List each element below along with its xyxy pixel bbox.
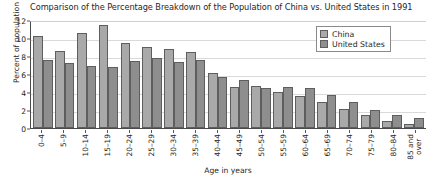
bar-china [33, 36, 43, 128]
bar-group [294, 22, 316, 128]
legend-label: China [332, 30, 354, 39]
bar-china [77, 33, 87, 128]
bar-china [208, 73, 218, 128]
legend-label: United States [332, 40, 385, 49]
bar-group [272, 22, 294, 128]
bar-china [361, 115, 371, 129]
bar-group [97, 22, 119, 128]
y-axis-tick-label: 10 [2, 35, 26, 44]
x-axis-tick-label: 60–64 [301, 134, 310, 157]
x-axis-tick-label: 30–34 [169, 134, 178, 157]
bar-group [54, 22, 76, 128]
x-axis-tick-label: 10–14 [81, 134, 90, 157]
bar-china [55, 51, 65, 128]
bar-group [228, 22, 250, 128]
y-axis-tick-label: 2 [2, 107, 26, 116]
bar-china [164, 49, 174, 128]
x-axis-tick-label: 20–24 [125, 134, 134, 157]
bar-united-states [349, 102, 359, 128]
x-axis-tick-slot: 85 andover [404, 130, 426, 164]
bar-united-states [261, 88, 271, 129]
x-axis-tick-label: 70–74 [345, 134, 354, 157]
x-axis-tick-label: 45–49 [235, 134, 244, 157]
x-axis-tick-slot: 0–4 [30, 130, 52, 164]
bar-china [295, 96, 305, 128]
bar-united-states [327, 95, 337, 128]
bar-china [186, 52, 196, 129]
bar-united-states [43, 60, 53, 128]
x-axis-tick-slot: 45–49 [228, 130, 250, 164]
bar-china [251, 86, 261, 128]
x-axis-tick-slot: 80–84 [382, 130, 404, 164]
bar-china [404, 124, 414, 129]
bar-group [141, 22, 163, 128]
bar-group [207, 22, 229, 128]
x-axis-tick-label: 75–79 [367, 134, 376, 157]
x-axis-tick-slot: 30–34 [162, 130, 184, 164]
bar-united-states [87, 66, 97, 128]
x-axis-tick-slot: 55–59 [272, 130, 294, 164]
x-axis-tick-mark [63, 130, 64, 133]
bar-china [142, 47, 152, 128]
x-axis-tick-label: 65–69 [323, 134, 332, 157]
bar-united-states [239, 80, 249, 128]
legend-item[interactable]: China [320, 29, 385, 39]
bar-united-states [283, 87, 293, 128]
bar-chart-figure: Comparison of the Percentage Breakdown o… [0, 0, 432, 181]
x-axis-tick-label: 35–39 [191, 134, 200, 157]
legend-swatch-icon [320, 30, 328, 38]
legend-swatch-icon [320, 40, 328, 48]
bar-group [403, 22, 425, 128]
y-axis-tick-label: 4 [2, 89, 26, 98]
x-axis-tick-mark [41, 130, 42, 133]
bar-group [185, 22, 207, 128]
bar-united-states [196, 60, 206, 128]
bar-china [99, 25, 109, 128]
bar-group [119, 22, 141, 128]
x-axis-tick-slot: 20–24 [118, 130, 140, 164]
x-axis-tick-label: 5–9 [59, 134, 68, 147]
bar-united-states [108, 67, 118, 128]
bar-group [32, 22, 54, 128]
x-axis-tick-slot: 75–79 [360, 130, 382, 164]
bar-group [250, 22, 272, 128]
x-axis-ticks: 0–45–910–1415–1920–2425–2930–3435–3940–4… [30, 130, 426, 164]
bar-united-states [392, 115, 402, 129]
x-axis-tick-label: 25–29 [147, 134, 156, 157]
bar-united-states [370, 110, 380, 128]
x-axis-tick-label: 15–19 [103, 134, 112, 157]
x-axis-tick-slot: 25–29 [140, 130, 162, 164]
bar-united-states [152, 58, 162, 128]
x-axis-tick-slot: 40–44 [206, 130, 228, 164]
bar-china [230, 87, 240, 128]
bar-united-states [305, 88, 315, 129]
bar-group [163, 22, 185, 128]
x-axis-tick-slot: 60–64 [294, 130, 316, 164]
x-axis-tick-slot: 70–74 [338, 130, 360, 164]
bar-china [382, 121, 392, 128]
bar-united-states [218, 77, 228, 128]
bar-united-states [174, 62, 184, 128]
y-axis-ticks: 024681012 [0, 21, 30, 129]
x-axis-tick-label: 50–54 [257, 134, 266, 157]
bar-china [121, 43, 131, 128]
chart-legend: ChinaUnited States [316, 26, 391, 52]
x-axis-tick-slot: 65–69 [316, 130, 338, 164]
bar-united-states [130, 61, 140, 128]
x-axis-tick-slot: 50–54 [250, 130, 272, 164]
x-axis-tick-label: 85 andover [407, 134, 422, 160]
y-axis-tick-label: 12 [2, 17, 26, 26]
x-axis-tick-label: 0–4 [37, 134, 46, 147]
x-axis-tick-label: 80–84 [389, 134, 398, 157]
bar-group [76, 22, 98, 128]
legend-item[interactable]: United States [320, 39, 385, 49]
x-axis-tick-mark [415, 130, 416, 133]
y-axis-tick-label: 6 [2, 71, 26, 80]
x-axis-label: Age in years [30, 166, 426, 175]
x-axis-tick-slot: 35–39 [184, 130, 206, 164]
x-axis-tick-label: 55–59 [279, 134, 288, 157]
bar-united-states [414, 118, 424, 128]
x-axis-tick-slot: 5–9 [52, 130, 74, 164]
chart-title: Comparison of the Percentage Breakdown o… [30, 2, 430, 12]
bar-united-states [65, 63, 75, 128]
